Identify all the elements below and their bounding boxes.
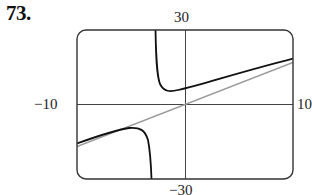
graph-plot bbox=[0, 0, 312, 195]
curve-right-branch bbox=[156, 30, 294, 91]
curve-left-branch bbox=[77, 128, 152, 179]
